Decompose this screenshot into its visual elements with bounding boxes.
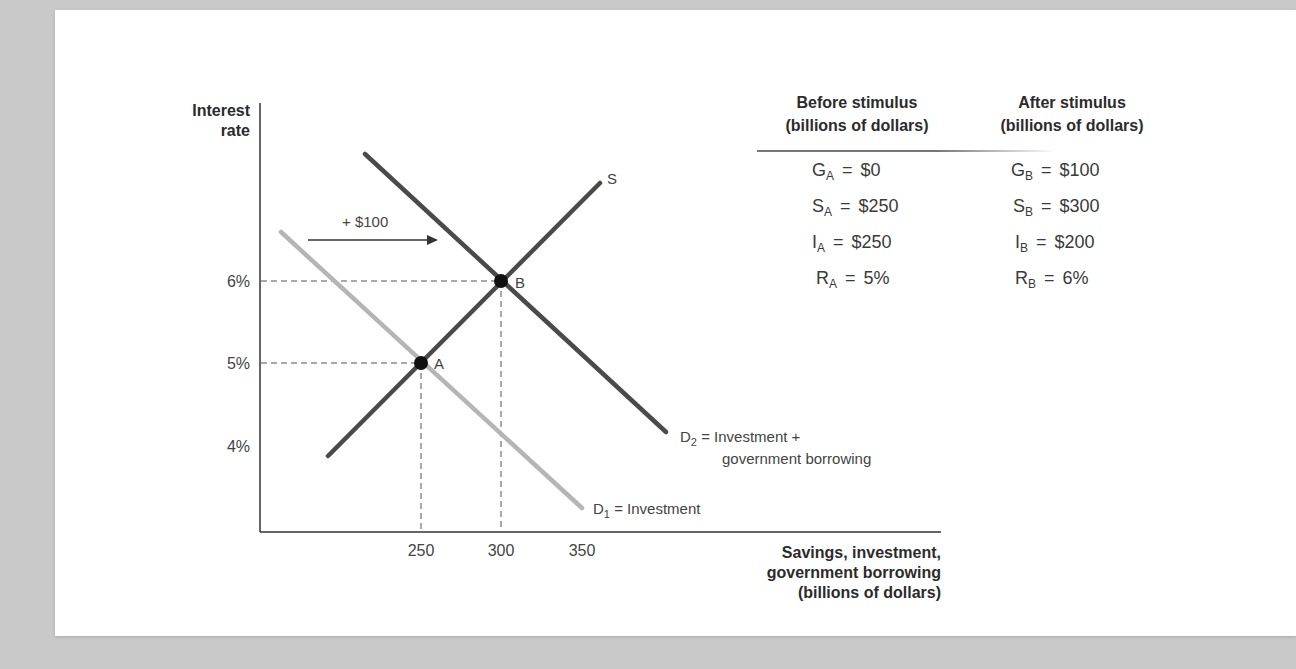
x-axis-title-line3: (billions of dollars): [740, 583, 941, 603]
after-header: After stimulus (billions of dollars): [982, 91, 1162, 137]
y-tick-5: 5%: [227, 355, 250, 372]
before-header: Before stimulus (billions of dollars): [757, 91, 957, 137]
before-header-line2: (billions of dollars): [757, 114, 957, 137]
point-a-label: A: [434, 355, 444, 372]
x-tick-300: 300: [488, 542, 515, 559]
after-row-s: SB=$300: [1013, 193, 1100, 225]
d1-rest: = Investment: [610, 500, 701, 517]
y-axis-title-line1: Interest: [150, 101, 250, 121]
x-tick-250: 250: [408, 542, 435, 559]
header-rule: [757, 150, 1057, 152]
after-row-i: IB=$200: [1015, 229, 1095, 261]
x-axis-title: Savings, investment, government borrowin…: [740, 543, 941, 603]
s-curve-label: S: [607, 170, 617, 187]
before-row-s: SA=$250: [812, 193, 899, 225]
point-a-marker: [414, 356, 428, 370]
d1-curve: [281, 232, 582, 508]
point-b-label: B: [515, 274, 525, 291]
d2-curve-label: D2 = Investment +: [680, 428, 801, 448]
d2-curve: [365, 154, 666, 432]
x-axis-title-line1: Savings, investment,: [740, 543, 941, 563]
d2-curve-label-line2: government borrowing: [722, 450, 871, 467]
before-row-g: GA=$0: [812, 157, 881, 189]
after-header-line2: (billions of dollars): [982, 114, 1162, 137]
x-axis-title-line2: government borrowing: [740, 563, 941, 583]
shift-label: + $100: [342, 213, 388, 230]
x-tick-350: 350: [569, 542, 596, 559]
before-header-line1: Before stimulus: [757, 91, 957, 114]
after-row-g: GB=$100: [1011, 157, 1100, 189]
y-axis-title: Interest rate: [150, 101, 250, 141]
d1-curve-label: D1 = Investment: [593, 500, 701, 520]
shift-arrow-head-icon: [427, 235, 438, 245]
y-axis-title-line2: rate: [150, 121, 250, 141]
d2-main: D: [680, 428, 691, 445]
after-row-r: RB=6%: [1015, 265, 1089, 297]
after-header-line1: After stimulus: [982, 91, 1162, 114]
before-row-r: RA=5%: [816, 265, 890, 297]
d1-main: D: [593, 500, 604, 517]
y-tick-6: 6%: [227, 273, 250, 290]
before-row-i: IA=$250: [812, 229, 892, 261]
point-b-marker: [494, 274, 508, 288]
y-tick-4: 4%: [227, 438, 250, 455]
d2-rest: = Investment +: [697, 428, 801, 445]
